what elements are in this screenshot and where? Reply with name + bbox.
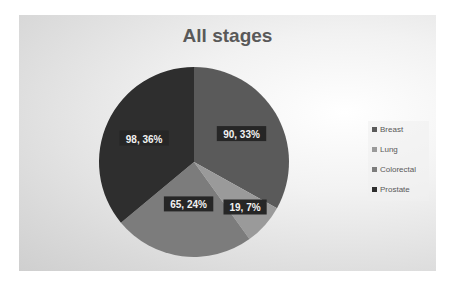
data-label-colorectal: 65, 24% (170, 199, 207, 210)
legend-label: Prostate (380, 185, 410, 194)
data-label-breast: 90, 33% (223, 129, 260, 140)
legend-label: Colorectal (380, 165, 416, 174)
legend-swatch-lung (372, 147, 377, 152)
legend-item-breast: Breast (372, 125, 403, 134)
data-label-lung: 19, 7% (230, 202, 261, 213)
legend-item-prostate: Prostate (372, 185, 410, 194)
legend: Breast Lung Colorectal Prostate (368, 121, 429, 201)
legend-swatch-breast (372, 127, 377, 132)
legend-item-lung: Lung (372, 145, 398, 154)
legend-swatch-prostate (372, 187, 377, 192)
data-label-prostate: 98, 36% (126, 134, 163, 145)
legend-label: Lung (380, 145, 398, 154)
legend-item-colorectal: Colorectal (372, 165, 416, 174)
legend-label: Breast (380, 125, 403, 134)
legend-swatch-colorectal (372, 167, 377, 172)
